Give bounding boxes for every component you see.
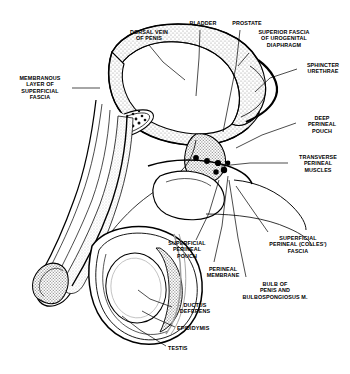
label-superficial-perineal-pouch: SUPERFICIAL PERINEAL POUCH bbox=[163, 240, 211, 259]
label-testis: TESTIS bbox=[168, 345, 198, 351]
label-prostate: PROSTATE bbox=[228, 20, 266, 26]
label-dorsal-vein-of-penis: DORSAL VEIN OF PENIS bbox=[122, 29, 176, 42]
label-membranous-layer: MEMBRANOUS LAYER OF SUPERFICIAL FASCIA bbox=[10, 75, 70, 101]
label-bladder: BLADDER bbox=[185, 20, 221, 26]
label-bulb-of-penis: BULB OF PENIS AND BULBOSPONGIOSUS M. bbox=[232, 281, 318, 300]
label-superior-fascia: SUPERIOR FASCIA OF UROGENITAL DIAPHRAGM bbox=[250, 29, 318, 48]
label-sphincter-urethrae: SPHINCTER URETHRAE bbox=[300, 62, 346, 75]
label-ductus-deferens: DUCTUS DEFERENS bbox=[174, 302, 216, 315]
label-superficial-perineal-colles-fascia: SUPERFICIAL PERINEAL (COLLES') FASCIA bbox=[258, 235, 338, 254]
leader-dorsal-vein bbox=[149, 45, 185, 80]
leader-transverse-muscles bbox=[221, 163, 288, 166]
anatomical-figure: DORSAL VEIN OF PENISBLADDERPROSTATESUPER… bbox=[0, 0, 350, 374]
leader-colles-fascia bbox=[236, 186, 268, 232]
anatomy-illustration bbox=[0, 0, 350, 374]
leader-bulb-of-penis bbox=[229, 180, 246, 277]
label-transverse-perineal-muscles: TRANSVERSE PERINEAL MUSCLES bbox=[290, 154, 346, 173]
label-epididymis: EPIDIDYMIS bbox=[177, 325, 223, 331]
label-perineal-membrane: PERINEAL MEMBRANE bbox=[200, 266, 246, 279]
label-deep-perineal-pouch: DEEP PERINEAL POUCH bbox=[300, 115, 344, 134]
